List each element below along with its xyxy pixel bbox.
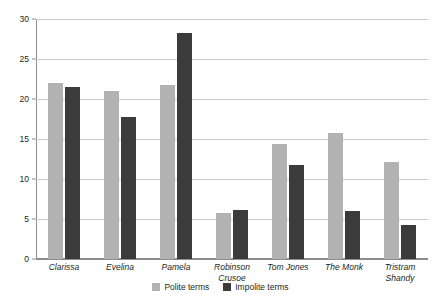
bar-group xyxy=(148,19,204,259)
bar[interactable] xyxy=(233,210,248,259)
x-axis-label: RobinsonCrusoe xyxy=(204,262,260,283)
gridline xyxy=(36,259,428,260)
bar[interactable] xyxy=(177,33,192,259)
x-axis-label: TristramShandy xyxy=(372,262,428,283)
bar-group xyxy=(36,19,92,259)
legend-item[interactable]: Polite terms xyxy=(152,283,209,292)
plot-area: 051015202530 xyxy=(36,19,428,259)
bar[interactable] xyxy=(272,144,287,259)
chart-legend: Polite termsImpolite terms xyxy=(0,283,441,292)
bar[interactable] xyxy=(401,225,416,259)
y-tick-label: 25 xyxy=(20,55,29,64)
bar-group xyxy=(204,19,260,259)
x-axis-label: Tom Jones xyxy=(260,262,316,283)
bar[interactable] xyxy=(384,162,399,259)
y-tick-label: 5 xyxy=(24,215,29,224)
bar-group xyxy=(316,19,372,259)
x-axis-label-line: Robinson xyxy=(214,262,250,272)
bar[interactable] xyxy=(104,91,119,259)
x-axis-label-line: Pamela xyxy=(162,262,191,272)
legend-swatch xyxy=(223,283,231,291)
bar-chart: 051015202530 ClarissaEvelinaPamelaRobins… xyxy=(0,0,441,303)
x-axis-label-line: Tristram xyxy=(385,262,416,272)
bar[interactable] xyxy=(328,133,343,259)
bar[interactable] xyxy=(48,83,63,259)
bar-group xyxy=(92,19,148,259)
bar[interactable] xyxy=(289,165,304,259)
x-axis-label-line: The Monk xyxy=(325,262,363,272)
y-tick-label: 0 xyxy=(24,255,29,264)
x-axis-label: Evelina xyxy=(92,262,148,283)
legend-item[interactable]: Impolite terms xyxy=(223,283,288,292)
legend-label: Impolite terms xyxy=(235,283,288,292)
legend-label: Polite terms xyxy=(164,283,209,292)
x-axis-labels: ClarissaEvelinaPamelaRobinsonCrusoeTom J… xyxy=(36,262,428,283)
bar-groups xyxy=(36,19,428,259)
bar[interactable] xyxy=(216,213,231,259)
y-tick-label: 30 xyxy=(20,15,29,24)
y-tick-label: 15 xyxy=(20,135,29,144)
y-tick-label: 20 xyxy=(20,95,29,104)
x-axis-label: Clarissa xyxy=(36,262,92,283)
bar-group xyxy=(372,19,428,259)
x-axis-label: The Monk xyxy=(316,262,372,283)
bar[interactable] xyxy=(65,87,80,259)
bar[interactable] xyxy=(345,211,360,259)
legend-swatch xyxy=(152,283,160,291)
x-axis-label-line: Tom Jones xyxy=(267,262,308,272)
x-axis-label-line: Shandy xyxy=(372,273,428,284)
x-axis-label: Pamela xyxy=(148,262,204,283)
bar[interactable] xyxy=(160,85,175,259)
y-tick-label: 10 xyxy=(20,175,29,184)
bar-group xyxy=(260,19,316,259)
x-axis-label-line: Clarissa xyxy=(49,262,80,272)
bar[interactable] xyxy=(121,117,136,259)
x-axis-label-line: Evelina xyxy=(106,262,134,272)
